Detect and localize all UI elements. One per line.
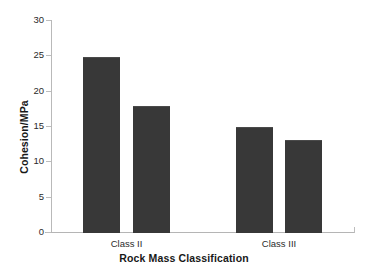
y-tick-label: 25 xyxy=(18,50,44,60)
y-tick-label: 30 xyxy=(18,15,44,25)
y-tick-label: 15 xyxy=(18,121,44,131)
x-tick-label: Class II xyxy=(87,238,167,249)
x-axis-end-cap xyxy=(354,227,355,233)
x-axis-title: Rock Mass Classification xyxy=(0,252,368,264)
bar xyxy=(83,57,120,233)
bar xyxy=(236,127,273,233)
y-tick-label: 20 xyxy=(18,86,44,96)
bar xyxy=(285,140,322,233)
y-tick-mark xyxy=(46,161,51,162)
y-tick-mark xyxy=(46,197,51,198)
y-tick-label: 10 xyxy=(18,156,44,166)
x-tick-label: Class III xyxy=(239,238,319,249)
y-axis-line xyxy=(51,20,52,233)
bar xyxy=(133,106,170,233)
y-tick-label: 5 xyxy=(18,192,44,202)
y-tick-mark xyxy=(46,126,51,127)
bar-chart-figure: Cohesion/MPa 051015202530 Class IIClass … xyxy=(0,0,368,274)
y-tick-mark xyxy=(46,232,51,233)
y-tick-mark xyxy=(46,55,51,56)
y-tick-mark xyxy=(46,20,51,21)
y-tick-mark xyxy=(46,91,51,92)
plot-area: 051015202530 Class IIClass III xyxy=(51,20,355,232)
y-tick-label: 0 xyxy=(18,227,44,237)
